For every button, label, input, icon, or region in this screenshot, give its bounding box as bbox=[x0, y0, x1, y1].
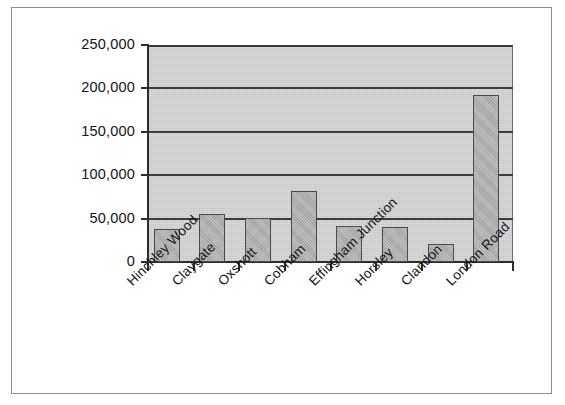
y-axis-tick bbox=[141, 174, 148, 176]
x-axis-tick bbox=[512, 263, 514, 271]
bar-chart: 050,000100,000150,000200,000250,000 Hinc… bbox=[0, 0, 565, 405]
y-axis-tick bbox=[141, 44, 148, 46]
y-axis-tick-label: 150,000 bbox=[35, 123, 135, 139]
y-axis-tick bbox=[141, 87, 148, 89]
y-axis-tick bbox=[141, 218, 148, 220]
y-axis-tick bbox=[141, 131, 148, 133]
y-axis-tick-label: 50,000 bbox=[35, 210, 135, 226]
y-axis-tick-label: 100,000 bbox=[35, 166, 135, 182]
bars-group bbox=[149, 45, 513, 262]
chart-page: 050,000100,000150,000200,000250,000 Hinc… bbox=[0, 0, 565, 405]
y-axis-tick-label: 250,000 bbox=[35, 36, 135, 52]
y-axis-tick-label: 200,000 bbox=[35, 79, 135, 95]
y-axis-tick-label: 0 bbox=[35, 253, 135, 269]
